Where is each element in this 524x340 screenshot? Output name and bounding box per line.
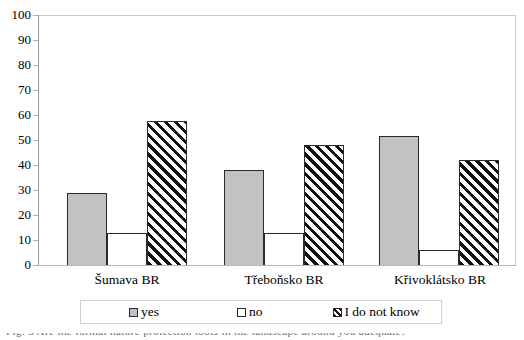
bar-i-do-not-know xyxy=(459,160,499,265)
y-axis-tick: 0 xyxy=(0,258,38,272)
legend-item-i-do-not-know: I do not know xyxy=(333,304,420,320)
legend-swatch-i-do-not-know-icon xyxy=(333,308,342,317)
legend-swatch-no-icon xyxy=(237,308,246,317)
bar-group xyxy=(57,16,197,265)
bar-no xyxy=(107,233,147,265)
y-axis-tick-label: 50 xyxy=(18,133,38,147)
y-axis-tick: 100 xyxy=(0,8,38,22)
y-axis-tick-label: 10 xyxy=(18,233,38,247)
y-axis-tick: 10 xyxy=(0,233,38,247)
bar-group xyxy=(369,16,509,265)
chart-legend: yes no I do not know xyxy=(80,300,442,324)
y-axis-tick: 40 xyxy=(0,158,38,172)
bar-no xyxy=(419,250,459,265)
legend-item-yes: yes xyxy=(129,304,159,320)
bar-yes xyxy=(67,193,107,265)
legend-label-yes: yes xyxy=(141,304,159,320)
y-axis-tick: 50 xyxy=(0,133,38,147)
y-axis-tick-label: 60 xyxy=(18,108,38,122)
plot-area xyxy=(39,16,515,265)
category-label-krivoklatsko: Křivoklátsko BR xyxy=(365,272,515,288)
legend-item-no: no xyxy=(237,304,263,320)
y-axis-tick-label: 40 xyxy=(18,158,38,172)
bar-yes xyxy=(224,170,264,265)
y-axis-tick-label: 90 xyxy=(18,33,38,47)
y-axis-tick: 60 xyxy=(0,108,38,122)
y-axis-tick-label: 0 xyxy=(25,258,39,272)
y-axis-tick: 20 xyxy=(0,208,38,222)
legend-label-no: no xyxy=(249,304,263,320)
y-axis-tick-label: 70 xyxy=(18,83,38,97)
legend-label-i-do-not-know: I do not know xyxy=(345,304,420,320)
y-axis: 100 90 80 70 60 50 40 30 20 10 0 xyxy=(0,0,38,280)
bar-i-do-not-know xyxy=(304,145,344,265)
caption-remnant: Fig. 3 Are the formal nature protection … xyxy=(0,333,524,340)
axis-baseline xyxy=(38,265,516,266)
y-axis-tick-label: 30 xyxy=(18,183,38,197)
category-label-sumava: Šumava BR xyxy=(57,272,197,288)
legend-swatch-yes-icon xyxy=(129,308,138,317)
bar-no xyxy=(264,233,304,265)
y-axis-tick: 70 xyxy=(0,83,38,97)
bar-group xyxy=(214,16,354,265)
bar-yes xyxy=(379,136,419,265)
y-axis-tick: 90 xyxy=(0,33,38,47)
bar-chart: 100 90 80 70 60 50 40 30 20 10 0 xyxy=(0,0,524,340)
y-axis-tick: 30 xyxy=(0,183,38,197)
bar-i-do-not-know xyxy=(147,121,187,265)
caption-remnant-text: Fig. 3 Are the formal nature protection … xyxy=(0,333,524,337)
category-label-trebonsko: Třeboňsko BR xyxy=(214,272,354,288)
y-axis-tick: 80 xyxy=(0,58,38,72)
y-axis-tick-label: 80 xyxy=(18,58,38,72)
y-axis-tick-label: 100 xyxy=(12,8,39,22)
y-axis-tick-label: 20 xyxy=(18,208,38,222)
